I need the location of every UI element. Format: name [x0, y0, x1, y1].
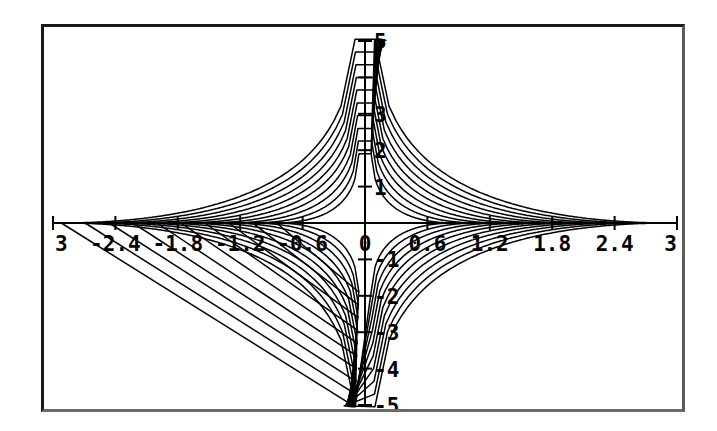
y-tick-label: 5	[374, 30, 387, 54]
x-tick-label: 3	[55, 232, 68, 256]
x-tick-label: 1.8	[533, 232, 571, 256]
x-tick-label: 0	[359, 232, 372, 256]
figure-canvas: 3-2.4-1.8-1.2-0.600.61.21.82.435321-1-2-…	[0, 0, 717, 431]
y-tick-label: -4	[374, 358, 399, 382]
x-tick-label: 0.6	[408, 232, 446, 256]
x-tick-label: 1.2	[471, 232, 509, 256]
contour-plot: 3-2.4-1.8-1.2-0.600.61.21.82.435321-1-2-…	[44, 27, 682, 409]
y-tick-label: 1	[374, 176, 387, 200]
y-tick-label: 2	[374, 139, 387, 163]
plot-frame: 3-2.4-1.8-1.2-0.600.61.21.82.435321-1-2-…	[41, 24, 685, 412]
x-tick-label: 2.4	[596, 232, 634, 256]
y-tick-label: -1	[374, 248, 399, 272]
x-tick-label: -2.4	[90, 232, 141, 256]
y-tick-label: -3	[374, 321, 399, 345]
x-tick-label: 3	[664, 232, 677, 256]
y-tick-label: -5	[374, 394, 399, 409]
x-tick-label: -1.2	[215, 232, 266, 256]
y-tick-label: 3	[374, 103, 387, 127]
x-tick-label: -0.6	[277, 232, 328, 256]
x-tick-label: -1.8	[153, 232, 204, 256]
axis-lines	[53, 41, 677, 405]
y-tick-label: -2	[374, 285, 399, 309]
